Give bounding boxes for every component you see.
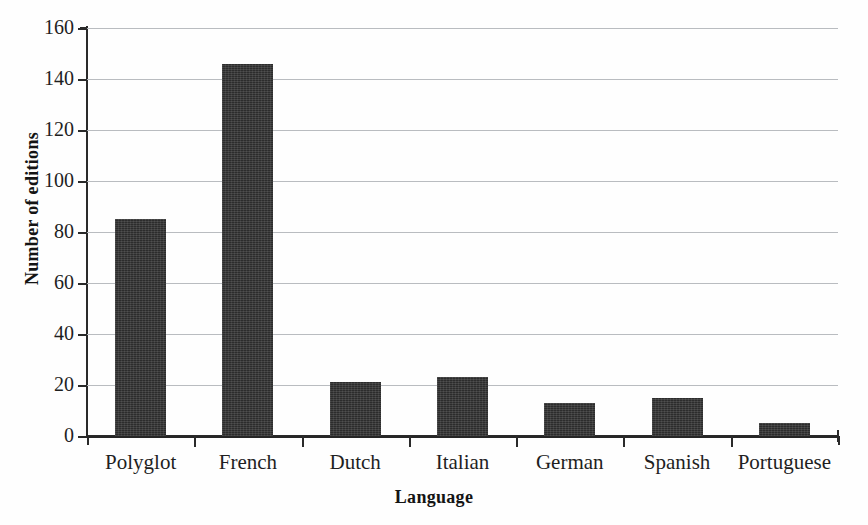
plot-area [87, 28, 838, 436]
gridline [87, 79, 838, 80]
gridline [87, 28, 838, 29]
y-axis-tick-label: 60 [28, 272, 74, 292]
bar [437, 377, 488, 436]
x-axis-tick-label: Italian [409, 450, 516, 474]
x-axis-edge-tick [838, 436, 840, 445]
bar [115, 219, 166, 436]
x-axis-edge-tick [87, 436, 89, 445]
x-axis-tick [516, 436, 518, 447]
x-axis-tick [623, 436, 625, 447]
y-axis-tick-label: 80 [28, 221, 74, 241]
axis-baseline [87, 436, 838, 438]
x-axis-tick-label: German [516, 450, 623, 474]
bar [222, 64, 273, 436]
y-axis-tick [78, 283, 87, 285]
x-axis-tick-label: Portuguese [731, 450, 838, 474]
bar [330, 382, 381, 436]
y-axis-tick-label: 40 [28, 323, 74, 343]
x-axis-tick [194, 436, 196, 447]
y-axis-tick-label: 140 [28, 68, 74, 88]
y-axis-tick [78, 334, 87, 336]
y-axis-tick [78, 28, 87, 30]
gridline [87, 232, 838, 233]
x-axis-tick [302, 436, 304, 447]
y-axis-tick-label: 160 [28, 17, 74, 37]
y-axis-tick-label: 120 [28, 119, 74, 139]
y-axis-tick-label: 100 [28, 170, 74, 190]
y-axis-tick [78, 385, 87, 387]
y-axis-tick [78, 436, 87, 438]
x-axis-tick-label: French [194, 450, 301, 474]
y-axis-tick-labels: 020406080100120140160 [14, 0, 74, 525]
x-axis-tick-label: Polyglot [87, 450, 194, 474]
y-axis-tick [78, 181, 87, 183]
bar [652, 398, 703, 436]
y-axis-tick [78, 79, 87, 81]
gridline [87, 181, 838, 182]
x-axis-tick [409, 436, 411, 447]
x-axis-tick [731, 436, 733, 447]
gridline [87, 130, 838, 131]
x-axis-tick-label: Spanish [623, 450, 730, 474]
y-axis-tick [78, 232, 87, 234]
y-axis-tick-label: 20 [28, 374, 74, 394]
gridline [87, 283, 838, 284]
gridline [87, 334, 838, 335]
y-axis-tick [78, 130, 87, 132]
y-axis-tick-label: 0 [28, 425, 74, 445]
bar [544, 403, 595, 436]
x-axis-tick-label: Dutch [302, 450, 409, 474]
bar [759, 423, 810, 436]
x-axis-title: Language [0, 487, 868, 508]
bar-chart-figure: Number of editions 020406080100120140160… [0, 0, 868, 525]
